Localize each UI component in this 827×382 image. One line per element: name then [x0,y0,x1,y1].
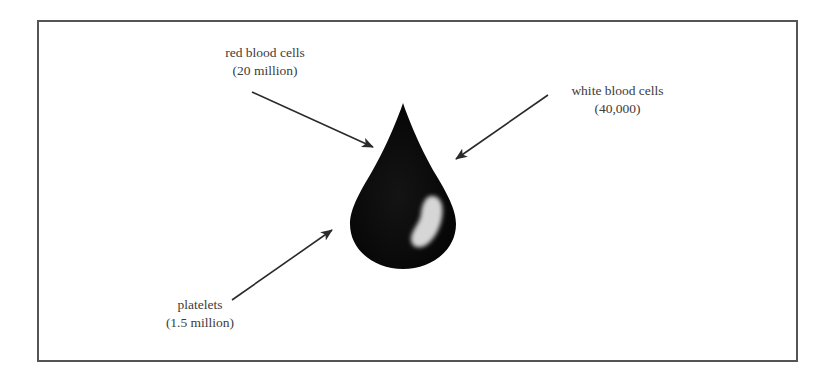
platelets-arrow-icon [232,230,332,300]
label-platelets-count: (1.5 million) [150,314,250,332]
diagram-canvas [0,0,827,382]
label-red-blood-cells: red blood cells (20 million) [195,44,335,80]
blood-drop-icon [350,103,456,269]
label-platelets: platelets (1.5 million) [150,296,250,332]
label-platelets-name: platelets [150,296,250,314]
label-red-blood-cells-name: red blood cells [195,44,335,62]
label-white-blood-cells: white blood cells (40,000) [545,82,690,118]
label-white-blood-cells-count: (40,000) [545,100,690,118]
white-blood-cells-arrow-icon [456,95,548,159]
label-white-blood-cells-name: white blood cells [545,82,690,100]
red-blood-cells-arrow-icon [252,92,373,147]
label-red-blood-cells-count: (20 million) [195,62,335,80]
